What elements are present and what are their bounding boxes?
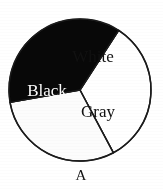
pie-chart-svg: White Gray Black A xyxy=(0,0,163,189)
pie-label-black: Black xyxy=(27,81,67,100)
pie-chart-figure: White Gray Black A xyxy=(0,0,163,189)
pie-label-gray: Gray xyxy=(81,102,115,121)
pie-label-white: White xyxy=(72,47,114,66)
figure-caption: A xyxy=(76,167,87,183)
